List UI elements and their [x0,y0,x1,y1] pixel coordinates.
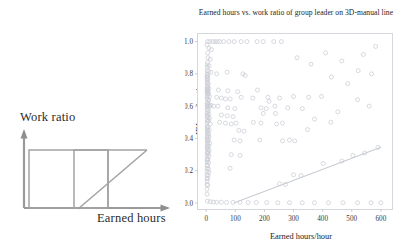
x-tick-label: 300 [288,215,299,223]
y-axis-tick-labels: 0.00.20.40.60.81.0 [185,38,193,207]
scatter-panel: Earned hours vs. work ratio of group lea… [185,0,407,252]
y-tick-label: 0.0 [185,200,193,208]
x-axis-tick-labels: 0100200300400500600 [204,215,386,223]
y-tick-label: 0.8 [185,70,193,78]
x-tick-label: 500 [346,215,357,223]
y-tick-label: 0.2 [185,167,193,175]
schematic-panel: Work ratio Earned hours [0,0,185,252]
schematic-drawing [0,0,185,252]
schematic-rectangle-left [29,150,108,208]
y-tick-label: 0.4 [185,135,193,143]
x-tick-label: 600 [375,215,386,223]
y-tick-label: 0.6 [185,103,193,111]
schematic-diagonal-line [78,150,147,209]
x-tick-label: 0 [204,215,208,223]
x-tick-label: 200 [259,215,270,223]
chart-plot-area: 0100200300400500600 0.00.20.40.60.81.0 [185,0,407,252]
y-tick-label: 1.0 [185,38,193,46]
schematic-y-axis [21,129,28,208]
schematic-rectangle-right [74,150,108,208]
x-tick-label: 400 [317,215,328,223]
x-tick-label: 100 [230,215,241,223]
figure-root: Work ratio Earned hours Earned hour [0,0,407,252]
